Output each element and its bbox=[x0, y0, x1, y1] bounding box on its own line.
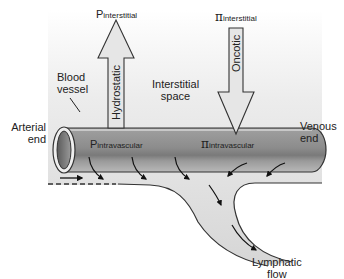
subscript: interstitial bbox=[103, 11, 137, 20]
pi-intravascular-label: πintravascular bbox=[201, 138, 254, 152]
lymphatic-flow-label: Lymphatic flow bbox=[252, 256, 302, 279]
subscript: intravascular bbox=[97, 141, 142, 150]
hydrostatic-label: Hydrostatic bbox=[110, 64, 122, 120]
subscript: intravascular bbox=[209, 141, 254, 150]
pi-interstitial-label: πinterstitial bbox=[215, 11, 257, 25]
interstitial-space-label: Interstitial space bbox=[152, 78, 199, 102]
oncotic-label: Oncotic bbox=[230, 34, 242, 72]
subscript: interstitial bbox=[223, 14, 257, 23]
p-intravascular-label: Pintravascular bbox=[90, 138, 143, 152]
venous-end-label: Venous end bbox=[300, 120, 337, 144]
starling-diagram: Hydrostatic Oncotic bbox=[0, 0, 344, 279]
p-interstitial-label: Pinterstitial bbox=[96, 8, 137, 22]
blood-vessel-label: Blood vessel bbox=[57, 71, 88, 95]
arterial-end-label: Arterial end bbox=[8, 121, 46, 145]
